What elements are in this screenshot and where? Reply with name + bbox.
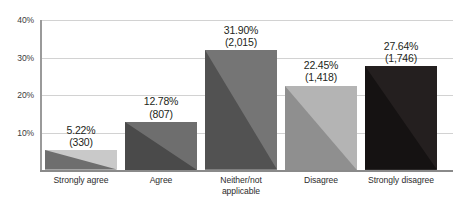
x-tick-label-strongly-disagree: Strongly disagree: [363, 175, 439, 186]
bar-data-label: 31.90% (2,015): [224, 24, 258, 49]
bar-data-label: 5.22% (330): [67, 124, 96, 149]
bar-value-percent: 5.22%: [67, 124, 96, 136]
bar-slot: 27.64% (1,746): [365, 20, 437, 170]
bar-agree[interactable]: [125, 122, 197, 170]
bar-fill-icon: [125, 122, 197, 170]
x-tick-label-strongly-agree: Strongly agree: [41, 175, 121, 186]
plot-area: 5.22% (330) 12.78% (807): [41, 20, 441, 170]
bar-value-percent: 12.78%: [144, 95, 178, 107]
bar-fill-icon: [205, 50, 277, 170]
bar-fill-icon: [285, 86, 357, 170]
bar-slot: 31.90% (2,015): [205, 20, 277, 170]
x-tick-label-neither: Neither/not applicable: [202, 175, 280, 196]
bar-neither-not-applicable[interactable]: [205, 50, 277, 170]
bar-value-count: (1,746): [384, 52, 418, 64]
bar-value-count: (330): [67, 136, 96, 148]
bar-value-percent: 27.64%: [384, 40, 418, 52]
y-tick-label: 10%: [0, 128, 34, 138]
bar-value-percent: 31.90%: [224, 24, 258, 36]
bar-value-count: (1,418): [304, 71, 338, 83]
bar-disagree[interactable]: [285, 86, 357, 170]
bar-slot: 12.78% (807): [125, 20, 197, 170]
bar-strongly-disagree[interactable]: [365, 66, 437, 170]
y-tick-label: 20%: [0, 90, 34, 100]
bar-slot: 22.45% (1,418): [285, 20, 357, 170]
bar-slot: 5.22% (330): [45, 20, 117, 170]
bar-data-label: 12.78% (807): [144, 95, 178, 120]
bar-fill-icon: [365, 66, 437, 170]
bar-data-label: 22.45% (1,418): [304, 59, 338, 84]
y-tick-label: 40%: [0, 15, 34, 25]
x-axis-labels: Strongly agree Agree Neither/not applica…: [41, 175, 441, 215]
bar-fill-icon: [45, 150, 117, 170]
x-tick-label-disagree: Disagree: [281, 175, 361, 186]
bar-strongly-agree[interactable]: [45, 150, 117, 170]
x-tick-label-agree: Agree: [121, 175, 201, 186]
bar-data-label: 27.64% (1,746): [384, 40, 418, 65]
x-axis-line: [40, 170, 453, 172]
bar-value-count: (807): [144, 108, 178, 120]
bar-chart: 40% 30% 20% 10% 5.22% (330) 12.78% (807): [0, 0, 461, 216]
bar-value-count: (2,015): [224, 36, 258, 48]
bar-value-percent: 22.45%: [304, 59, 338, 71]
y-tick-label: 30%: [0, 53, 34, 63]
